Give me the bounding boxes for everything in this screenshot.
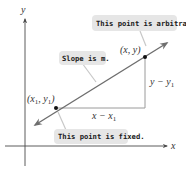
arbitrary-point-dot [143,55,147,59]
callout-slope: Slope is m. [59,51,110,65]
arbitrary-point-label: (x, y) [120,44,141,56]
x-axis-label: x [170,140,176,151]
leader-fixed [58,112,66,130]
callout-arbitrary-text: This point is arbitrary. [96,19,186,28]
callout-fixed: This point is fixed. [54,129,145,144]
callout-slope-text: Slope is m. [62,54,110,63]
y-axis-label: y [20,4,26,15]
leader-arbitrary [140,31,146,46]
horizontal-leg-label: x − x1 [91,110,117,123]
fixed-point-dot [54,106,58,110]
vertical-leg-label: y − y1 [149,76,175,89]
callout-arbitrary: This point is arbitrary. [92,15,186,31]
fixed-point-label: (x1, y1) [27,93,55,106]
point-slope-diagram: y x (x1, y1) (x, y) x − x1 y − y1 This p… [0,0,186,172]
leader-slope [82,63,96,82]
diagram-canvas: y x (x1, y1) (x, y) x − x1 y − y1 This p… [0,0,186,172]
callout-fixed-text: This point is fixed. [58,132,145,141]
